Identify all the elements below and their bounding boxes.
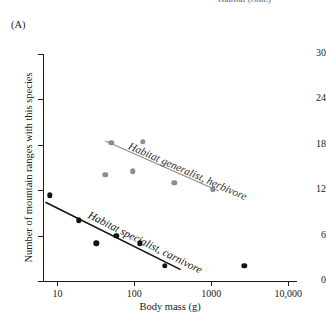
x-axis-title: Body mass (g) [43, 301, 297, 312]
scatter-plot: 0612182430 10100100010,000 Habitat gener… [0, 0, 326, 320]
y-axis-title: Number of mountain ranges with this spec… [23, 48, 34, 288]
